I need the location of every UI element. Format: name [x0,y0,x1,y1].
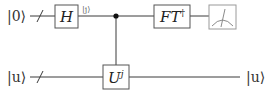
bottom-output-label: |u⟩ [246,69,265,86]
quantum-circuit-diagram: |0⟩ |u⟩ H |j⟩ Uj FT† |u⟩ [0,0,272,95]
bottom-input-label: |u⟩ [7,69,26,86]
hadamard-gate-label: H [59,8,74,26]
top-input-label: |0⟩ [7,8,26,25]
intermediate-state-label: |j⟩ [82,5,90,14]
measurement-meter-icon [209,5,236,29]
control-dot-icon [113,13,118,18]
